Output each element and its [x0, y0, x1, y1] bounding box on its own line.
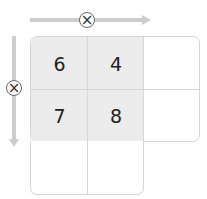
grid-cell-r0c1: 4: [88, 37, 144, 90]
right-arrow-icon: [142, 15, 151, 25]
grid-cell-r2c0: [31, 141, 87, 194]
grid-bottom-row: [30, 141, 144, 195]
grid-cell-r2c1: [88, 141, 143, 194]
grid-cell-r1c0: 7: [31, 90, 88, 141]
grid-cell-r0c0: 6: [31, 37, 88, 90]
grid-cell-r0c2: [144, 37, 199, 90]
grid-divider: [31, 89, 199, 90]
circled-times-icon-vertical: ×: [6, 80, 22, 96]
grid-divider: [87, 141, 88, 194]
grid-cell-r1c1: 8: [88, 90, 144, 141]
grid-cell-r1c2: [144, 90, 199, 141]
circled-times-icon-horizontal: ×: [79, 12, 95, 28]
grid-top-rows: 6 4 7 8: [30, 36, 200, 142]
down-arrow-icon: [9, 139, 19, 147]
